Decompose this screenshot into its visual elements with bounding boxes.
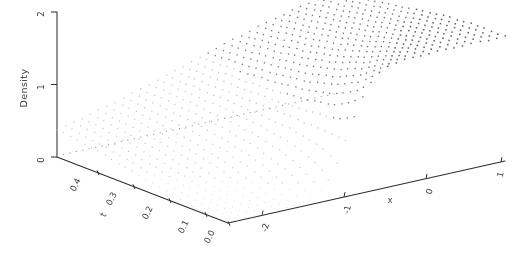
ytick-label-0.1: 0.1 [176,218,191,235]
xtick-label--1: -1 [341,204,353,215]
ytick-label-0.0: 0.0 [202,228,217,245]
right-axis-line [228,161,505,223]
vertical-axis-label: Density [18,69,29,108]
ztick-label-1: 1 [36,84,46,89]
ytick-label-0.2: 0.2 [140,204,155,221]
xtick--1 [344,192,345,197]
density-surface-mesh [56,0,506,222]
plot-canvas: 2 1 0 Density 0.4 0.3 0.2 0.1 0.0 t -2 -… [0,0,528,255]
right-tick-labels: -2 -1 0 1 [259,171,505,233]
axis-system [51,12,505,226]
ztick-label-0: 0 [36,157,46,162]
xtick-label-0: 0 [424,188,435,196]
ztick-label-2: 2 [36,11,46,16]
xtick-label--2: -2 [259,222,271,233]
ytick-label-0.3: 0.3 [104,190,119,207]
density-surface-plot: 2 1 0 Density 0.4 0.3 0.2 0.1 0.0 t -2 -… [0,0,528,255]
ytick-label-0.4: 0.4 [68,176,83,193]
right-axis-label: x [388,196,393,205]
xtick-label-1: 1 [495,171,506,179]
left-axis-label: t [99,212,108,219]
left-tick-labels: 0.4 0.3 0.2 0.1 0.0 [68,176,217,245]
vertical-tick-labels: 2 1 0 [36,11,46,162]
